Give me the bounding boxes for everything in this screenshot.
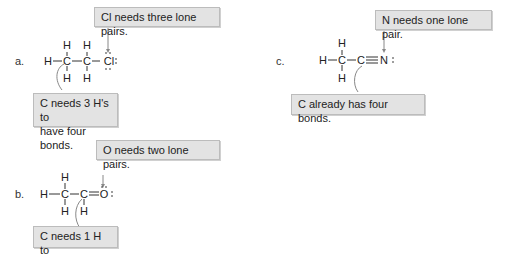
atom-h: H [79, 206, 89, 217]
atom-h: H [62, 40, 72, 51]
atom-h: H [60, 206, 70, 217]
problem-label: a. [15, 55, 24, 67]
callout-line: C needs 3 H's to [40, 96, 111, 124]
atom-h: H [337, 38, 347, 49]
atom-h: H [39, 189, 49, 200]
callout-c-needs-h: C needs 1 H to [33, 226, 118, 248]
atom-h: H [318, 55, 328, 66]
atom-c: C [82, 56, 92, 67]
atom-c: C [60, 189, 70, 200]
problem-label: b. [15, 188, 24, 200]
atom-o: O [99, 189, 109, 200]
atom-h: H [82, 40, 92, 51]
atom-h: H [82, 73, 92, 84]
atom-c: C [62, 56, 72, 67]
atom-n: N [379, 55, 389, 66]
atom-h: H [337, 73, 347, 84]
atom-c: C [337, 55, 347, 66]
atom-c: C [79, 189, 89, 200]
atom-cl: Cl [102, 56, 116, 67]
callout-c-needs-h: C needs 3 H's to have four bonds. [33, 93, 118, 127]
callout-o-lone-pairs: O needs two lone pairs. [96, 140, 220, 160]
atom-h: H [43, 56, 53, 67]
atom-c: C [356, 55, 366, 66]
problem-label: c. [276, 55, 285, 67]
atom-h: H [62, 73, 72, 84]
callout-line: C needs 1 H to [40, 229, 111, 257]
callout-c-four-bonds: C already has four bonds. [291, 94, 425, 115]
callout-cl-lone-pairs: Cl needs three lone pairs. [94, 7, 220, 27]
callout-n-lone-pair: N needs one lone pair. [375, 10, 492, 30]
atom-h: H [60, 172, 70, 183]
